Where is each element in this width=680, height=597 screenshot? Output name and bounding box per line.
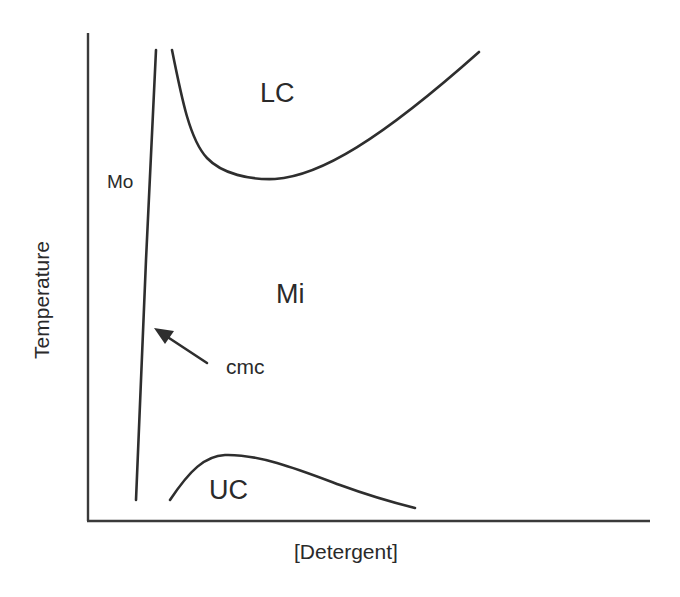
region-label-mo: Mo xyxy=(107,171,133,192)
x-axis-label: [Detergent] xyxy=(294,540,398,563)
cmc-boundary-line xyxy=(136,50,156,500)
cmc-label: cmc xyxy=(226,355,265,378)
region-label-uc: UC xyxy=(209,475,248,505)
uc-boundary-curve xyxy=(170,455,415,508)
phase-diagram: Mo LC Mi UC cmc [Detergent] Temperature xyxy=(0,0,680,597)
lc-boundary-curve xyxy=(172,50,479,179)
cmc-arrow-icon xyxy=(154,328,207,363)
region-label-lc: LC xyxy=(260,78,295,108)
region-label-mi: Mi xyxy=(276,279,305,309)
axes xyxy=(87,33,650,521)
y-axis-label: Temperature xyxy=(30,241,53,359)
